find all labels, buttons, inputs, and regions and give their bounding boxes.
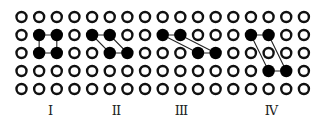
hollow-dot — [228, 84, 238, 94]
hollow-dot — [122, 30, 132, 40]
hollow-dot — [140, 30, 150, 40]
filled-dot — [51, 29, 63, 41]
hollow-dot — [140, 84, 150, 94]
filled-dot — [174, 29, 186, 41]
figure-outline-III — [163, 35, 216, 53]
hollow-dot — [228, 66, 238, 76]
hollow-dot — [211, 30, 221, 40]
hollow-dot — [69, 66, 79, 76]
hollow-dot — [211, 84, 221, 94]
hollow-dot — [69, 84, 79, 94]
hollow-dot — [52, 66, 62, 76]
filled-dot — [280, 65, 292, 77]
hollow-dot — [140, 48, 150, 58]
hollow-dot — [122, 66, 132, 76]
hollow-dot — [17, 84, 27, 94]
hollow-dot — [175, 84, 185, 94]
hollow-dot — [211, 66, 221, 76]
hollow-dot — [122, 12, 132, 22]
hollow-dot — [175, 66, 185, 76]
filled-dot — [33, 47, 45, 59]
hollow-dot — [87, 66, 97, 76]
hollow-dot — [228, 30, 238, 40]
hollow-dot — [158, 12, 168, 22]
filled-dot — [209, 47, 221, 59]
hollow-dot — [228, 12, 238, 22]
hollow-dot — [299, 30, 309, 40]
hollow-dot — [158, 66, 168, 76]
filled-dot — [121, 47, 133, 59]
hollow-dot — [69, 48, 79, 58]
hollow-dot — [281, 84, 291, 94]
hollow-dot — [264, 48, 274, 58]
hollow-dot — [299, 12, 309, 22]
filled-dot — [86, 29, 98, 41]
filled-dot — [33, 29, 45, 41]
figure-label-II: II — [112, 103, 120, 118]
hollow-dot — [281, 30, 291, 40]
hollow-dot — [17, 12, 27, 22]
hollow-dot — [211, 12, 221, 22]
hollow-dot — [246, 48, 256, 58]
hollow-dot — [246, 84, 256, 94]
hollow-dot — [52, 84, 62, 94]
hollow-dot — [69, 12, 79, 22]
hollow-dot — [87, 84, 97, 94]
hollow-dot — [17, 48, 27, 58]
filled-dot — [157, 29, 169, 41]
hollow-dot — [158, 84, 168, 94]
hollow-dot — [105, 12, 115, 22]
hollow-dot — [140, 66, 150, 76]
hollow-dot — [34, 12, 44, 22]
hollow-dot — [264, 12, 274, 22]
hollow-dot — [105, 84, 115, 94]
hollow-dot — [175, 48, 185, 58]
hollow-dot — [281, 12, 291, 22]
figure-label-III: III — [175, 103, 187, 118]
hollow-dot — [264, 84, 274, 94]
figure-label-IV: IV — [265, 103, 278, 118]
hollow-dot — [52, 12, 62, 22]
hollow-dot — [228, 48, 238, 58]
hollow-dot — [299, 48, 309, 58]
hollow-dot — [122, 84, 132, 94]
hollow-dot — [281, 48, 291, 58]
hollow-dot — [17, 30, 27, 40]
hollow-dot — [246, 12, 256, 22]
hollow-dot — [34, 66, 44, 76]
filled-dot — [104, 47, 116, 59]
hollow-dot — [140, 12, 150, 22]
hollow-dot — [246, 66, 256, 76]
filled-dot — [262, 65, 274, 77]
hollow-dot — [87, 12, 97, 22]
figure-label-I: I — [48, 103, 52, 118]
hollow-dot — [193, 12, 203, 22]
hollow-dot — [87, 48, 97, 58]
hollow-dot — [175, 12, 185, 22]
hollow-dot — [193, 84, 203, 94]
hollow-dot — [34, 84, 44, 94]
filled-dot — [104, 29, 116, 41]
filled-dot — [51, 47, 63, 59]
hollow-dot — [69, 30, 79, 40]
hollow-dot — [193, 66, 203, 76]
hollow-dot — [299, 66, 309, 76]
filled-dot — [192, 47, 204, 59]
hollow-dot — [193, 30, 203, 40]
hollow-dot — [299, 84, 309, 94]
hollow-dot — [158, 48, 168, 58]
filled-dot — [245, 29, 257, 41]
hollow-dot — [17, 66, 27, 76]
filled-dot — [262, 29, 274, 41]
hollow-dot — [105, 66, 115, 76]
